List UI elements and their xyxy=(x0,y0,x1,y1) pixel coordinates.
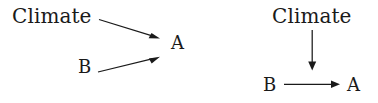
edge-climate-to-b-a-right xyxy=(308,30,316,71)
arrowhead-icon xyxy=(149,33,160,39)
edge-b-to-a-left xyxy=(98,57,160,72)
edge-b-to-a-right xyxy=(284,81,340,88)
diagram-panel-right: Climate B A xyxy=(200,0,378,103)
causal-diagram-figure: Climate B A Climate B A xyxy=(0,0,378,103)
node-label-climate-left: Climate xyxy=(12,6,92,26)
node-label-b-right: B xyxy=(263,76,276,94)
edge-climate-to-a-left xyxy=(99,20,160,39)
arrowhead-icon xyxy=(149,57,160,64)
node-label-climate-right: Climate xyxy=(272,6,352,26)
node-label-a-right: A xyxy=(347,76,360,94)
arrowhead-icon xyxy=(331,81,340,88)
diagram-panel-left: Climate B A xyxy=(0,0,200,103)
node-label-a-left: A xyxy=(171,34,184,52)
arrowhead-icon xyxy=(308,62,316,71)
node-label-b-left: B xyxy=(78,58,91,76)
